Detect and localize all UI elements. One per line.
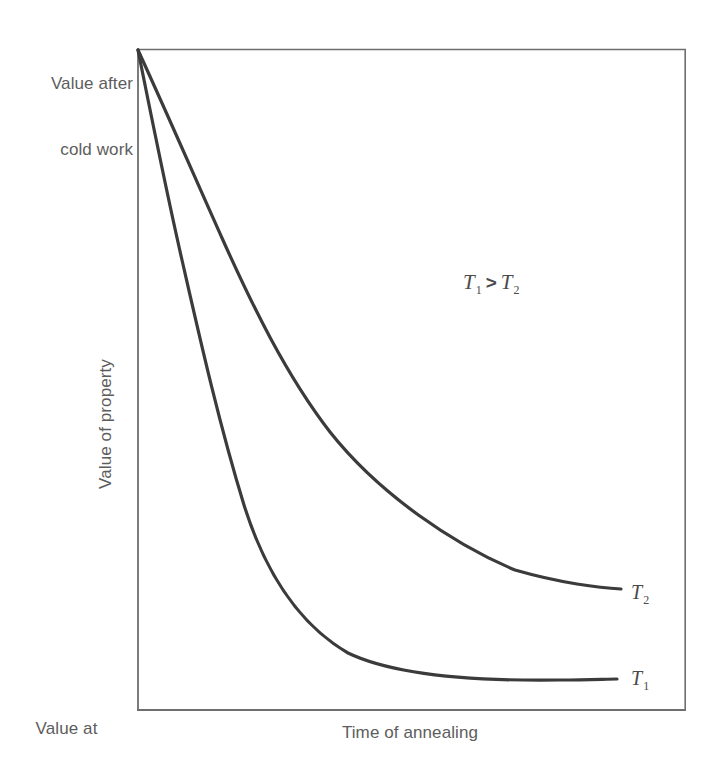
y-axis-bottom-label-line-1: Value at xyxy=(0,718,133,740)
curve-label-t1-sub: 1 xyxy=(642,679,649,693)
annotation-temperature-relation: T1>T2 xyxy=(463,270,519,298)
curve-label-t1: T1 xyxy=(631,667,649,694)
y-axis-top-label-line-1: Value after xyxy=(0,73,133,95)
y-axis-top-label-line-2: cold work xyxy=(0,139,133,161)
curve-t2 xyxy=(138,50,621,589)
curve-label-t2-base: T xyxy=(631,581,642,603)
y-axis-top-label: Value after cold work xyxy=(0,29,133,205)
y-axis-bottom-label: Value at complete recovery xyxy=(0,674,133,775)
annotation-right-base: T xyxy=(501,270,513,294)
annotation-operator: > xyxy=(482,272,501,293)
curve-label-t2-sub: 2 xyxy=(642,593,649,607)
curve-label-t2: T2 xyxy=(631,581,649,608)
curve-label-t1-base: T xyxy=(631,667,642,689)
curve-t1 xyxy=(138,50,617,680)
x-axis-title: Time of annealing xyxy=(285,722,535,744)
y-axis-title: Value of property xyxy=(95,309,117,539)
annotation-left-base: T xyxy=(463,270,475,294)
figure-container: Value after cold work Value at complete … xyxy=(0,0,707,775)
annotation-right-sub: 2 xyxy=(512,283,519,297)
annotation-left-sub: 1 xyxy=(475,283,482,297)
